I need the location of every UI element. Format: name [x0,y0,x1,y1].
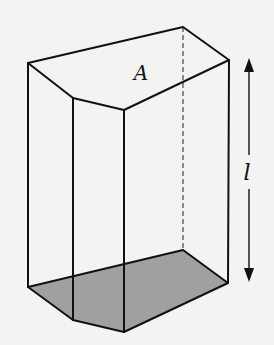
area-label: A [132,61,148,85]
length-label: l [243,160,250,185]
bottom-face [28,250,228,332]
prism-diagram: A l [0,0,274,345]
prism-svg: A l [0,0,274,345]
top-face [28,27,229,110]
arrow-up-icon [244,58,254,72]
arrow-down-icon [244,268,254,282]
vertical-edge-right [228,60,229,283]
